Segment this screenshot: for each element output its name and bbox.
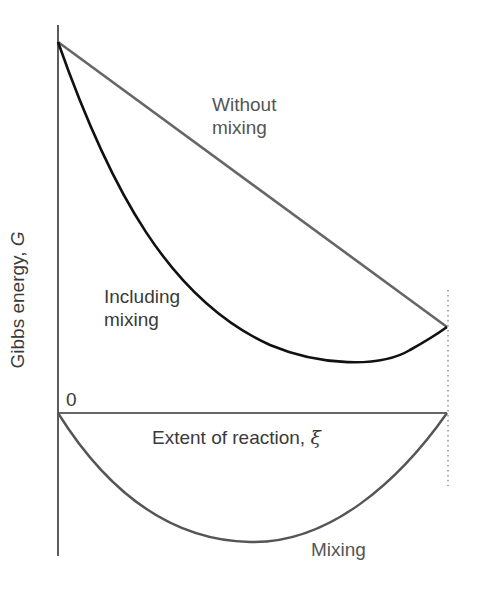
gibbs-energy-diagram: Without mixing Including mixing 0 Extent…	[0, 0, 482, 592]
g-symbol: G	[7, 232, 28, 247]
y-axis-label: Gibbs energy, G	[7, 232, 29, 369]
without-mixing-label: Without mixing	[212, 93, 276, 139]
without-mixing-label-line1: Without	[212, 93, 276, 116]
x-axis-label: Extent of reaction, ξ	[152, 426, 321, 449]
including-mixing-label: Including mixing	[104, 285, 180, 331]
diagram-canvas	[0, 0, 482, 592]
x-axis-label-text: Extent of reaction,	[152, 427, 310, 448]
origin-label: 0	[66, 388, 77, 411]
including-mixing-label-line1: Including	[104, 285, 180, 308]
xi-symbol: ξ	[310, 426, 320, 448]
including-mixing-label-line2: mixing	[104, 308, 180, 331]
mixing-label: Mixing	[311, 538, 366, 561]
without-mixing-label-line2: mixing	[212, 116, 276, 139]
y-axis-label-text: Gibbs energy,	[7, 246, 28, 368]
